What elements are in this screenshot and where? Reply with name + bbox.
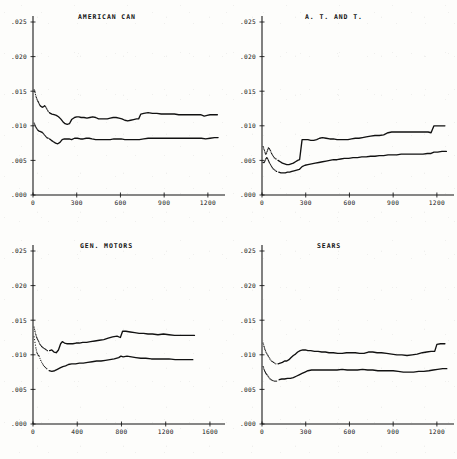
svg-text:.005: .005 xyxy=(11,386,27,393)
plot-top-left: .000.005.010.015.020.02503006009001200 xyxy=(0,0,228,229)
svg-text:.000: .000 xyxy=(240,191,256,198)
svg-text:.010: .010 xyxy=(11,351,27,358)
svg-text:.025: .025 xyxy=(11,247,27,254)
svg-text:.010: .010 xyxy=(240,351,256,358)
svg-text:0: 0 xyxy=(31,428,35,435)
svg-text:.000: .000 xyxy=(11,420,27,427)
svg-text:.020: .020 xyxy=(240,282,256,289)
svg-text:.000: .000 xyxy=(11,191,27,198)
svg-text:300: 300 xyxy=(71,199,83,206)
svg-text:300: 300 xyxy=(300,199,312,206)
svg-text:1600: 1600 xyxy=(202,428,218,435)
panel-bottom-right: SEARS .000.005.010.015.020.0250300600900… xyxy=(229,229,457,458)
svg-text:900: 900 xyxy=(387,199,399,206)
panel-top-left: AMERICAN CAN .000.005.010.015.020.025030… xyxy=(0,0,228,229)
panel-title-top-right: A. T. AND T. xyxy=(305,13,363,21)
svg-text:900: 900 xyxy=(387,428,399,435)
plot-top-right: .000.005.010.015.020.02503006009001200 xyxy=(229,0,457,229)
svg-text:0: 0 xyxy=(260,199,264,206)
svg-text:.020: .020 xyxy=(11,53,27,60)
svg-text:600: 600 xyxy=(343,428,355,435)
svg-text:600: 600 xyxy=(114,199,126,206)
svg-text:.005: .005 xyxy=(240,386,256,393)
figure-canvas: AMERICAN CAN .000.005.010.015.020.025030… xyxy=(0,0,457,459)
svg-text:.010: .010 xyxy=(11,122,27,129)
svg-text:.015: .015 xyxy=(11,88,27,95)
svg-text:.025: .025 xyxy=(240,18,256,25)
svg-text:.020: .020 xyxy=(11,282,27,289)
svg-text:1200: 1200 xyxy=(158,428,174,435)
svg-text:.025: .025 xyxy=(240,247,256,254)
svg-text:.000: .000 xyxy=(240,420,256,427)
svg-text:.025: .025 xyxy=(11,18,27,25)
panel-title-bottom-right: SEARS xyxy=(317,242,341,250)
plot-bottom-right: .000.005.010.015.020.02503006009001200 xyxy=(229,229,457,459)
svg-text:1200: 1200 xyxy=(429,199,445,206)
svg-text:.015: .015 xyxy=(240,317,256,324)
panel-bottom-left: GEN. MOTORS .000.005.010.015.020.0250400… xyxy=(0,229,228,458)
svg-text:.005: .005 xyxy=(11,157,27,164)
svg-text:900: 900 xyxy=(158,199,170,206)
svg-text:.005: .005 xyxy=(240,157,256,164)
svg-text:.015: .015 xyxy=(240,88,256,95)
svg-text:600: 600 xyxy=(343,199,355,206)
panel-title-top-left: AMERICAN CAN xyxy=(78,13,136,21)
panel-top-right: A. T. AND T. .000.005.010.015.020.025030… xyxy=(229,0,457,229)
svg-text:300: 300 xyxy=(300,428,312,435)
svg-text:0: 0 xyxy=(260,428,264,435)
svg-text:800: 800 xyxy=(115,428,127,435)
plot-bottom-left: .000.005.010.015.020.025040080012001600 xyxy=(0,229,228,459)
svg-text:.020: .020 xyxy=(240,53,256,60)
svg-text:.015: .015 xyxy=(11,317,27,324)
svg-text:0: 0 xyxy=(31,199,35,206)
svg-text:1200: 1200 xyxy=(200,199,216,206)
svg-text:1200: 1200 xyxy=(429,428,445,435)
svg-text:.010: .010 xyxy=(240,122,256,129)
svg-text:400: 400 xyxy=(71,428,83,435)
panel-title-bottom-left: GEN. MOTORS xyxy=(80,242,133,250)
